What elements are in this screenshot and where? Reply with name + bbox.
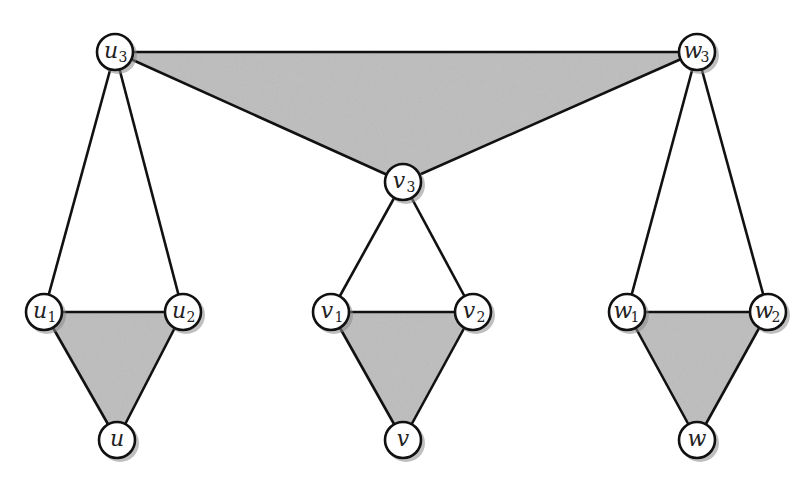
node-w3: w3 bbox=[679, 34, 719, 74]
node-label: v bbox=[321, 298, 334, 323]
node-label: u bbox=[104, 38, 118, 63]
shaded-face-u1-u2-u bbox=[44, 312, 183, 440]
shaded-face-u3-w3-v3 bbox=[115, 52, 697, 182]
node-label-subscript: 3 bbox=[701, 49, 710, 65]
node-label-subscript: 2 bbox=[477, 309, 486, 325]
node-label: u bbox=[33, 298, 47, 323]
edge-w3-w1 bbox=[627, 52, 697, 312]
node-label: v bbox=[463, 298, 476, 323]
node-u3: u3 bbox=[97, 34, 137, 74]
node-u1: u1 bbox=[26, 294, 66, 334]
node-label: v bbox=[397, 426, 410, 451]
node-w: w bbox=[679, 422, 719, 462]
node-label-subscript: 2 bbox=[772, 309, 781, 325]
node-label: u bbox=[110, 426, 124, 451]
node-label-subscript: 2 bbox=[187, 309, 196, 325]
node-v: v bbox=[385, 422, 425, 462]
shaded-faces bbox=[44, 52, 768, 440]
edge-u3-u1 bbox=[44, 52, 115, 312]
node-u: u bbox=[99, 422, 139, 462]
node-label: v bbox=[393, 168, 406, 193]
node-v1: v1 bbox=[313, 294, 353, 334]
edge-v3-v1 bbox=[331, 182, 403, 312]
node-label-subscript: 1 bbox=[48, 309, 57, 325]
node-label: w bbox=[688, 426, 707, 451]
edge-w3-w2 bbox=[697, 52, 768, 312]
node-label: u bbox=[172, 298, 186, 323]
node-label-subscript: 1 bbox=[631, 309, 640, 325]
node-w1: w1 bbox=[609, 294, 649, 334]
edge-u3-u2 bbox=[115, 52, 183, 312]
node-label-subscript: 1 bbox=[335, 309, 344, 325]
node-label-subscript: 3 bbox=[119, 49, 128, 65]
graph-diagram: u3w3v3u1u2uv1v2vw1w2w bbox=[0, 0, 812, 491]
node-label-subscript: 3 bbox=[407, 179, 416, 195]
